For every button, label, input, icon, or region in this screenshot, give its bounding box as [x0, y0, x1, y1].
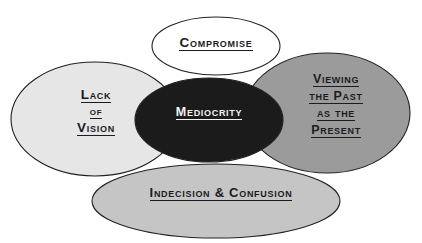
ellipse-mediocrity[interactable]	[135, 78, 283, 162]
ellipse-indecision-and-confusion[interactable]	[92, 164, 340, 238]
venn-diagram: Compromise Lack of Vision Mediocrity Vie…	[0, 0, 422, 243]
venn-ellipses	[0, 0, 422, 243]
ellipse-compromise[interactable]	[152, 17, 280, 75]
